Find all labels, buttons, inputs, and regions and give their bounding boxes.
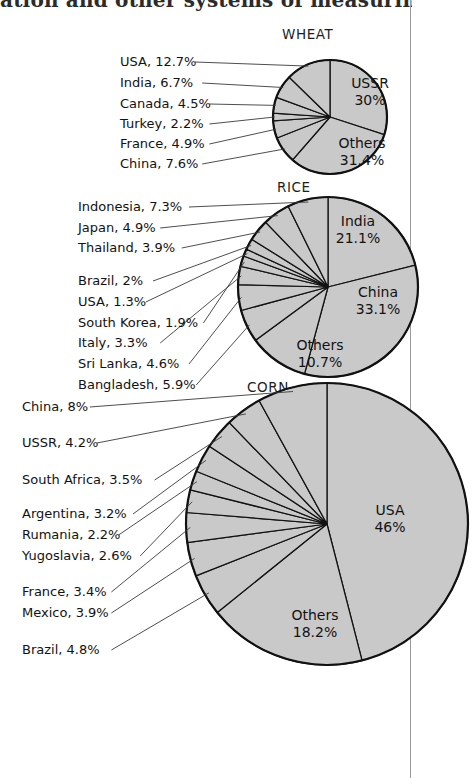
corn-callout-ussr: USSR, 4.2% (22, 435, 98, 450)
rice-inner-label-others: Others10.7% (296, 337, 343, 370)
corn-callout-argentina: Argentina, 3.2% (22, 506, 127, 521)
corn-leader-mexico (111, 558, 194, 613)
rice-callout-usa: USA, 1.3% (78, 294, 146, 309)
corn-inner-label-others: Others18.2% (291, 607, 338, 640)
rice-callout-sri-lanka: Sri Lanka, 4.6% (78, 356, 179, 371)
wheat-leader-usa (195, 62, 309, 66)
corn-inner-label-usa: USA46% (374, 502, 405, 535)
wheat-callout-canada: Canada, 4.5% (120, 96, 211, 111)
wheat-leader-france (209, 129, 276, 144)
rice-callout-indonesia: Indonesia, 7.3% (78, 199, 182, 214)
rice-chart-title: RICE (277, 179, 311, 195)
rice-inner-label-china: China33.1% (356, 284, 400, 317)
wheat-callout-labels: USA, 12.7%India, 6.7%Canada, 4.5%Turkey,… (119, 54, 211, 171)
wheat-inner-label-others: Others31.4% (338, 135, 385, 168)
rice-callout-japan: Japan, 4.9% (77, 220, 156, 235)
corn-leader-yugoslavia (140, 502, 192, 556)
wheat-callout-turkey: Turkey, 2.2% (119, 116, 204, 131)
rice-pie-chart: RICE India21.1%China33.1%Others10.7% Ind… (77, 179, 418, 392)
figure-page: ation and other systems of measuring WHE… (0, 0, 472, 778)
wheat-pie-chart: WHEAT USSR30%Others31.4% USA, 12.7%India… (119, 26, 389, 174)
corn-leader-brazil (111, 593, 208, 650)
rice-callout-thailand: Thailand, 3.9% (77, 240, 175, 255)
wheat-callout-france: France, 4.9% (120, 136, 205, 151)
rice-leader-italy (160, 276, 241, 343)
rice-callout-labels: Indonesia, 7.3%Japan, 4.9%Thailand, 3.9%… (77, 199, 198, 392)
wheat-leader-india (202, 83, 283, 88)
wheat-leader-turkey (209, 117, 274, 124)
corn-pie-chart: CORN USA46%Others18.2% China, 8%USSR, 4.… (21, 379, 468, 665)
wheat-callout-usa: USA, 12.7% (120, 54, 196, 69)
rice-leader-japan (160, 216, 278, 228)
corn-callout-mexico: Mexico, 3.9% (22, 605, 109, 620)
wheat-leader-china (202, 149, 285, 164)
wheat-chart-title: WHEAT (282, 26, 334, 42)
corn-callout-brazil: Brazil, 4.8% (22, 642, 100, 657)
wheat-callout-china: China, 7.6% (120, 156, 198, 171)
grain-production-pie-figure: WHEAT USSR30%Others31.4% USA, 12.7%India… (0, 0, 472, 778)
rice-leader-sri-lanka (189, 297, 241, 364)
wheat-callout-india: India, 6.7% (120, 75, 193, 90)
rice-callout-italy: Italy, 3.3% (78, 335, 148, 350)
corn-callout-rumania: Rumania, 2.2% (22, 527, 120, 542)
corn-callout-yugoslavia: Yugoslavia, 2.6% (21, 548, 132, 563)
corn-callout-china: China, 8% (22, 399, 88, 414)
wheat-inner-label-ussr: USSR30% (351, 75, 389, 108)
rice-leader-bangladesh (196, 325, 249, 385)
rice-inner-label-india: India21.1% (336, 213, 380, 246)
corn-callout-south-africa: South Africa, 3.5% (22, 472, 142, 487)
wheat-leader-canada (209, 104, 276, 105)
rice-callout-bangladesh: Bangladesh, 5.9% (78, 377, 196, 392)
rice-callout-brazil: Brazil, 2% (78, 273, 143, 288)
corn-callout-france: France, 3.4% (22, 584, 107, 599)
rice-callout-south-korea: South Korea, 1.9% (78, 315, 198, 330)
